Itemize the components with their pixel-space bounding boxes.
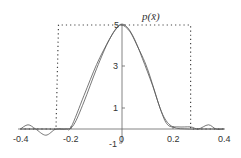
chart-title: p(x̄) [141,10,160,23]
y-tick-label: 1 [113,103,118,113]
x-tick-label: -0.2 [63,134,79,144]
y-tick-label: 3 [113,61,118,71]
y-tick-label: -1 [109,139,117,149]
x-tick-label: 0.4 [218,134,231,144]
x-tick-label: -0.4 [13,134,29,144]
x-tick-label: 0.2 [167,134,180,144]
x-tick-label: 0 [119,134,124,144]
density-chart: -0.4 -0.2 0 0.2 0.4 5 3 1 -1 p(x̄) [0,0,241,158]
